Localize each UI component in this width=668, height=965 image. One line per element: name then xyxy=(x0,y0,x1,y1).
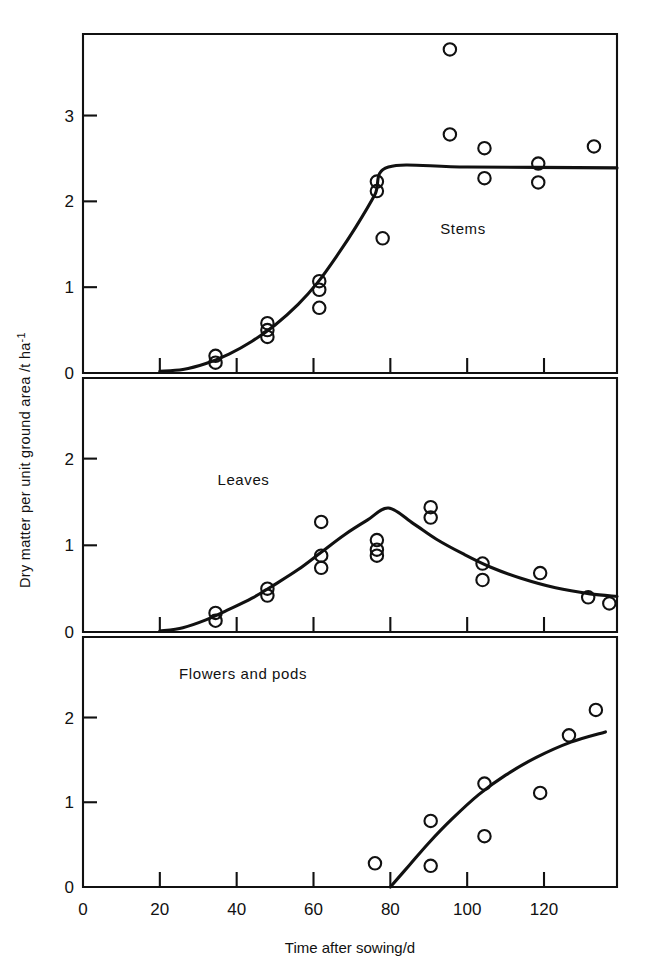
panel-frame xyxy=(83,34,617,373)
data-point xyxy=(444,43,456,55)
data-point xyxy=(313,284,325,296)
fitted-curve xyxy=(390,732,605,887)
panel-label: Flowers and pods xyxy=(179,665,307,682)
data-point xyxy=(534,787,546,799)
data-point xyxy=(313,302,325,314)
data-point xyxy=(532,176,544,188)
panel-label: Leaves xyxy=(217,471,269,488)
x-tick-label: 100 xyxy=(453,900,481,919)
data-point xyxy=(478,830,490,842)
data-point xyxy=(603,597,615,609)
data-point xyxy=(563,729,575,741)
data-point xyxy=(478,142,490,154)
fitted-curve xyxy=(160,508,617,631)
data-point xyxy=(478,777,490,789)
figure-container: 1230Stems120Leaves120Flowers and pods020… xyxy=(0,0,668,965)
y-tick-label: 1 xyxy=(65,536,74,555)
x-tick-label: 80 xyxy=(381,900,400,919)
data-point xyxy=(590,704,602,716)
y-tick-label: 1 xyxy=(65,278,74,297)
y-tick-label-zero: 0 xyxy=(65,878,74,897)
y-tick-label: 2 xyxy=(65,192,74,211)
fitted-curve xyxy=(160,165,617,371)
data-point xyxy=(376,232,388,244)
data-point xyxy=(588,140,600,152)
y-tick-label: 1 xyxy=(65,793,74,812)
data-point xyxy=(534,567,546,579)
y-tick-label-zero: 0 xyxy=(65,364,74,383)
y-tick-label: 2 xyxy=(65,709,74,728)
data-point xyxy=(424,860,436,872)
data-point xyxy=(315,516,327,528)
panel-label: Stems xyxy=(440,220,486,237)
x-tick-label: 120 xyxy=(530,900,558,919)
data-point xyxy=(369,857,381,869)
data-point xyxy=(424,815,436,827)
y-tick-label: 2 xyxy=(65,450,74,469)
panel-frame xyxy=(83,378,617,632)
x-tick-label: 60 xyxy=(304,900,323,919)
data-point xyxy=(478,172,490,184)
data-point xyxy=(444,128,456,140)
x-axis-title: Time after sowing/d xyxy=(285,939,415,956)
y-tick-label: 3 xyxy=(65,107,74,126)
panel-flowers-and-pods: 120Flowers and pods xyxy=(65,637,617,897)
panel-frame xyxy=(83,637,617,887)
y-axis-title: Dry matter per unit ground area /t ha-1 xyxy=(15,332,33,588)
x-tick-label: 0 xyxy=(78,900,87,919)
x-tick-label: 20 xyxy=(150,900,169,919)
multi-panel-scatter-chart: 1230Stems120Leaves120Flowers and pods020… xyxy=(0,0,668,965)
data-point xyxy=(476,574,488,586)
y-tick-label-zero: 0 xyxy=(65,623,74,642)
data-point xyxy=(315,562,327,574)
x-tick-label: 40 xyxy=(227,900,246,919)
panel-stems: 1230Stems xyxy=(65,34,617,383)
panel-leaves: 120Leaves xyxy=(65,378,617,642)
